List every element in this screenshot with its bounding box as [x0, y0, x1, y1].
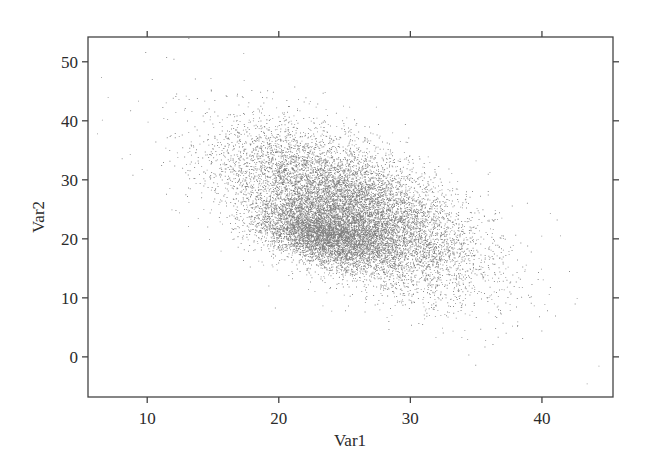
scatter-points	[97, 38, 599, 384]
x-tick-label: 30	[402, 409, 419, 428]
x-tick-label: 40	[533, 409, 550, 428]
scatter-chart: 1020304001020304050 Var1 Var2	[0, 0, 648, 474]
y-tick-label: 40	[61, 112, 78, 131]
x-tick-label: 10	[139, 409, 156, 428]
y-tick-label: 10	[61, 289, 78, 308]
y-axis-label: Var2	[29, 201, 48, 233]
y-tick-label: 20	[61, 230, 78, 249]
y-tick-label: 30	[61, 171, 78, 190]
y-tick-label: 0	[70, 348, 79, 367]
y-tick-label: 50	[61, 53, 78, 72]
x-axis-label: Var1	[334, 431, 366, 450]
plot-frame	[88, 37, 613, 397]
x-tick-label: 20	[270, 409, 287, 428]
data-points	[97, 38, 599, 384]
axis-ticks	[82, 31, 619, 403]
